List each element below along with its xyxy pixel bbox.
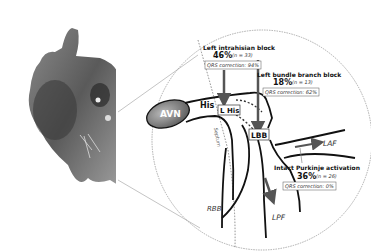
laf-lower-line bbox=[284, 154, 355, 158]
qrs-correction: QRS correction: 62% bbox=[265, 89, 317, 95]
heart-image bbox=[29, 28, 118, 185]
his-label: His bbox=[200, 101, 214, 110]
rbb-outer-line bbox=[222, 125, 249, 218]
arrow-lpf bbox=[265, 178, 272, 198]
arrow-laf bbox=[295, 143, 318, 147]
avn-label: AVN bbox=[160, 109, 181, 119]
block-left-bundle-branch: Left bundle branch block 18% (n = 13) QR… bbox=[257, 71, 342, 96]
qrs-correction: QRS correction: 94% bbox=[207, 62, 259, 68]
block-intact-purkinje: Intact Purkinje activation 36% (n = 26) … bbox=[274, 164, 360, 190]
block-n: (n = 33) bbox=[232, 52, 253, 58]
lpf-label: LPF bbox=[272, 213, 286, 222]
block-n: (n = 13) bbox=[292, 79, 313, 85]
septum-label: Septum bbox=[212, 127, 222, 147]
lpf-inner-line bbox=[258, 140, 266, 238]
block-title: Left bundle branch block bbox=[257, 71, 342, 78]
l-his-label: L His bbox=[220, 107, 239, 115]
block-left-intrahisian: Left intrahisian block 46% (n = 33) QRS … bbox=[203, 44, 276, 69]
block-percent: 46% bbox=[213, 51, 232, 60]
block-percent: 36% bbox=[297, 172, 316, 181]
lpf-outer-line bbox=[270, 140, 300, 212]
conduction-diagram: AVN His L His LBB LAF LPF RBB Septum Lef… bbox=[0, 0, 371, 251]
lbb-label: LBB bbox=[251, 131, 267, 140]
block-title: Intact Purkinje activation bbox=[274, 164, 360, 172]
block-percent: 18% bbox=[273, 78, 292, 87]
rbb-label: RBB bbox=[207, 205, 222, 213]
rbb-inner-line bbox=[186, 116, 233, 200]
laf-label: LAF bbox=[323, 139, 337, 148]
zoom-line-bottom bbox=[118, 180, 200, 228]
block-title: Left intrahisian block bbox=[203, 44, 276, 51]
qrs-correction: QRS correction: 0% bbox=[285, 183, 334, 189]
block-n: (n = 26) bbox=[316, 173, 337, 179]
